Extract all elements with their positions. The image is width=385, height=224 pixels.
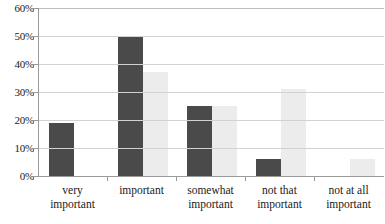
y-tick-label: 40% [0, 59, 34, 70]
gridline [39, 120, 384, 121]
x-category-label-line: not that [246, 183, 313, 197]
y-tick-label: 30% [0, 87, 34, 98]
x-category-label: veryimportant [38, 183, 107, 224]
gridline [39, 64, 384, 65]
x-category-label-line: very [39, 183, 106, 197]
bar-series-2-1 [143, 72, 168, 176]
x-category-label-line: important [246, 197, 313, 211]
x-category-label: not thatimportant [245, 183, 314, 224]
gridline [39, 36, 384, 37]
x-category-label: somewhatimportant [176, 183, 245, 224]
y-tick-mark [33, 176, 38, 177]
gridline [39, 148, 384, 149]
x-category-label-line: not at all [315, 183, 382, 197]
bar-chart: 0%10%20%30%40%50%60% veryimportantimport… [0, 0, 385, 224]
bar-series-1-0 [49, 123, 74, 176]
gridline [39, 92, 384, 93]
y-tick-mark [33, 92, 38, 93]
bar-series-2-2 [212, 106, 237, 176]
x-axis: veryimportantimportantsomewhatimportantn… [38, 183, 383, 224]
x-category-label: important [107, 183, 176, 224]
x-tick-mark [245, 176, 246, 181]
x-category-label-line: important [177, 197, 244, 211]
bar-series-1-1 [118, 36, 143, 176]
bar-series-2-4 [350, 159, 375, 176]
y-tick-mark [33, 8, 38, 9]
bar-series-2-3 [281, 89, 306, 176]
y-tick-label: 60% [0, 3, 34, 14]
y-tick-label: 0% [0, 171, 34, 182]
x-category-label-line: important [39, 197, 106, 211]
gridline [39, 8, 384, 9]
y-axis: 0%10%20%30%40%50%60% [0, 0, 34, 224]
y-tick-mark [33, 64, 38, 65]
y-tick-label: 10% [0, 143, 34, 154]
y-tick-label: 20% [0, 115, 34, 126]
x-tick-mark [107, 176, 108, 181]
x-category-label-line: important [315, 197, 382, 211]
bar-series-1-3 [256, 159, 281, 176]
y-tick-mark [33, 120, 38, 121]
plot-area [38, 8, 384, 177]
x-tick-mark [314, 176, 315, 181]
x-tick-mark [176, 176, 177, 181]
bar-series-1-2 [187, 106, 212, 176]
y-tick-mark [33, 148, 38, 149]
x-category-label: not at allimportant [314, 183, 383, 224]
x-category-label-line: important [108, 183, 175, 197]
y-tick-mark [33, 36, 38, 37]
x-category-label-line: somewhat [177, 183, 244, 197]
y-tick-label: 50% [0, 31, 34, 42]
